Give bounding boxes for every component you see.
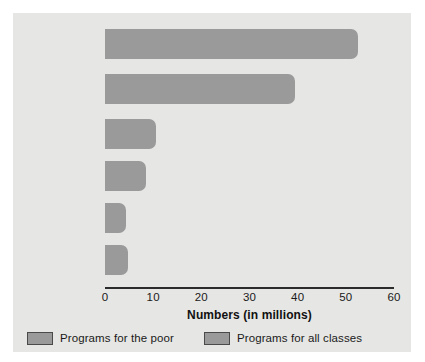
legend-label: Programs for the poor	[60, 332, 174, 344]
x-axis-title: Numbers (in millions)	[105, 308, 394, 322]
x-axis-tick-labels: 0 10 20 30 40 50 60	[13, 291, 411, 307]
legend-item-programs-for-the-poor: Programs for the poor	[27, 329, 174, 347]
x-axis-tick: 60	[387, 291, 400, 303]
x-axis-tick: 50	[339, 291, 352, 303]
plot-area: Social Security Food stamps Unemployment…	[13, 13, 411, 288]
legend-label: Programs for all classes	[237, 332, 362, 344]
x-axis-tick: 20	[195, 291, 208, 303]
legend-item-programs-for-all-classes: Programs for all classes	[204, 329, 362, 347]
bar-unemployment-compensation	[105, 119, 156, 149]
x-axis-line	[105, 287, 394, 289]
bar-social-security	[105, 29, 358, 59]
x-axis-tick: 40	[291, 291, 304, 303]
x-axis-tick: 30	[243, 291, 256, 303]
bar-ssi	[105, 161, 146, 191]
legend-swatch-icon	[27, 332, 53, 345]
bar-food-stamps	[105, 74, 295, 104]
x-axis-tick: 10	[147, 291, 160, 303]
x-axis-tick: 0	[102, 291, 109, 303]
bar-veterans-disability	[105, 203, 126, 233]
bar-tanf	[105, 245, 128, 275]
chart-legend: Programs for the poor Programs for all c…	[27, 329, 411, 349]
chart-figure: Social Security Food stamps Unemployment…	[13, 13, 411, 352]
legend-swatch-icon	[204, 332, 230, 345]
